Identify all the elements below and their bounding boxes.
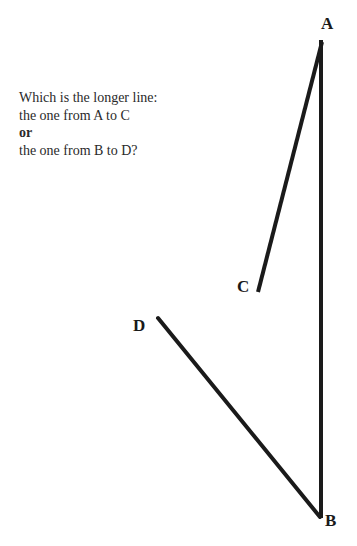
line-b-d: [158, 318, 320, 517]
label-c: C: [237, 277, 249, 296]
label-a: A: [321, 14, 334, 33]
label-d: D: [133, 316, 145, 335]
line-a-c: [258, 42, 322, 292]
label-b: B: [325, 511, 336, 530]
line-diagram: A C D B: [0, 0, 357, 546]
